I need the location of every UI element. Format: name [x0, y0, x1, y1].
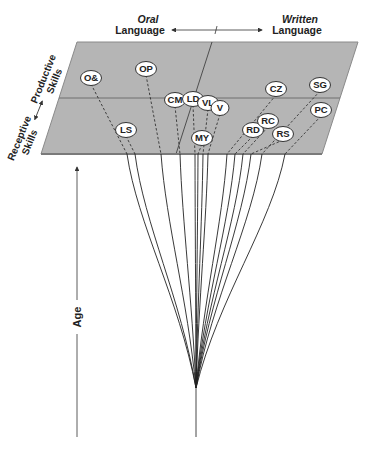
- node-label: V: [217, 102, 224, 113]
- skill-node-op: OP: [136, 62, 157, 77]
- node-label: OP: [139, 63, 153, 74]
- growth-curve-ls: [135, 154, 196, 388]
- growth-curve-pc: [196, 154, 285, 388]
- skill-node-oand: O&: [81, 71, 102, 86]
- age-axis: Age: [71, 167, 83, 437]
- skill-node-sg: SG: [310, 78, 331, 93]
- node-label: RC: [261, 115, 275, 126]
- skill-node-pc: PC: [311, 103, 332, 118]
- skill-node-cz: CZ: [266, 82, 287, 97]
- skills-axis-down-arrow: [35, 111, 38, 119]
- skill-node-rs: RS: [273, 127, 294, 142]
- growth-curve-op: [161, 154, 196, 388]
- skills-development-diagram: Oral Language Written Language Productiv…: [0, 0, 368, 455]
- node-label: MY: [195, 132, 210, 143]
- age-label: Age: [71, 307, 83, 328]
- node-label: RD: [246, 124, 260, 135]
- growth-curve-rc: [196, 154, 243, 388]
- language-axis: Oral Language Written Language: [115, 13, 322, 36]
- skill-node-rc: RC: [258, 114, 279, 129]
- node-label: SG: [313, 79, 327, 90]
- node-label: PC: [314, 104, 327, 115]
- growth-curve-oand: [127, 154, 196, 388]
- skill-node-ls: LS: [116, 123, 137, 138]
- skill-node-my: MY: [192, 131, 213, 146]
- node-label: LS: [120, 124, 132, 135]
- node-label: O&: [84, 72, 98, 83]
- oral-language-label-line2: Language: [115, 24, 165, 36]
- growth-curve-sg: [196, 154, 262, 388]
- node-label: CM: [168, 94, 183, 105]
- node-label: CZ: [270, 83, 283, 94]
- written-language-label-line2: Language: [272, 24, 322, 36]
- skill-node-v: V: [211, 101, 229, 116]
- node-label: RS: [276, 128, 289, 139]
